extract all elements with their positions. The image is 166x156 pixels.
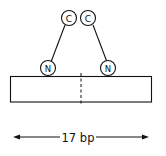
n-label-left: N bbox=[45, 64, 51, 74]
linker-right bbox=[93, 25, 107, 62]
n-domain-left: N bbox=[41, 61, 56, 76]
dimer-dna-diagram: C C N N 17 bp bbox=[0, 0, 166, 156]
c-domain-right: C bbox=[81, 11, 96, 26]
n-label-right: N bbox=[105, 64, 111, 74]
arrowhead-left-icon bbox=[13, 135, 20, 140]
span-arrow: 17 bp bbox=[13, 131, 149, 145]
linker-left bbox=[51, 25, 65, 62]
c-label-right: C bbox=[85, 14, 91, 24]
arrowhead-right-icon bbox=[142, 135, 149, 140]
c-label-left: C bbox=[66, 14, 72, 24]
c-domain-left: C bbox=[62, 11, 77, 26]
n-domain-right: N bbox=[101, 61, 116, 76]
span-label: 17 bp bbox=[62, 131, 95, 145]
